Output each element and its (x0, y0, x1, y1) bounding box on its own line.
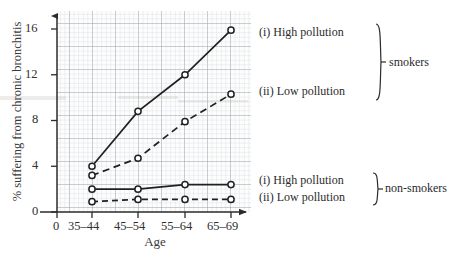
x-tick-label-0: 0 (53, 219, 59, 234)
y-tick-label-0: 0 (32, 204, 38, 219)
legend-smokers-high-pollution: (i) High pollution (259, 25, 344, 40)
y-tick-label-16: 16 (25, 21, 38, 36)
y-tick-label-12: 12 (25, 67, 38, 82)
legend-group-non-smokers: non-smokers (385, 181, 447, 196)
legend-group-smokers: smokers (389, 55, 429, 70)
x-axis-ticks (57, 212, 231, 218)
x-tick-label-35-44: 35–44 (68, 219, 99, 234)
x-tick-label-55-64: 55–64 (161, 219, 192, 234)
x-tick-label-65-69: 65–69 (207, 219, 238, 234)
smokers-brace (374, 22, 388, 104)
chart-figure: % suffering from chronic bronchitis Age … (0, 0, 459, 258)
y-axis-label: % suffering from chronic bronchitis (10, 9, 25, 215)
x-axis-label: Age (110, 234, 200, 250)
legend-non-smokers-high-pollution: (i) High pollution (259, 173, 344, 188)
y-tick-label-4: 4 (32, 158, 38, 173)
grid-background (57, 11, 251, 212)
legend-smokers-low-pollution: (ii) Low pollution (259, 84, 345, 99)
legend-non-smokers-low-pollution: (ii) Low pollution (259, 190, 345, 205)
x-tick-label-45-54: 45–54 (114, 219, 145, 234)
non-smokers-brace (371, 171, 385, 209)
y-tick-label-8: 8 (32, 112, 38, 127)
y-axis-ticks (51, 29, 57, 212)
